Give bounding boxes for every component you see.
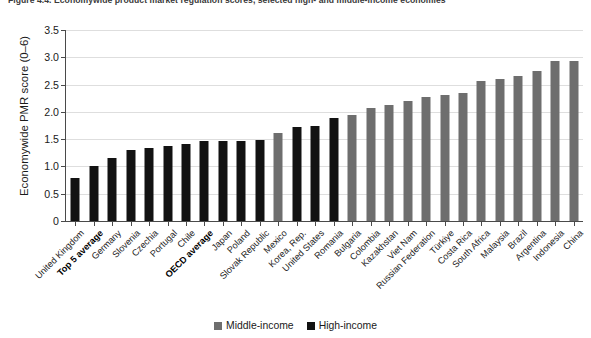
bar[interactable] — [477, 81, 486, 221]
y-tick-label: 1.5 — [29, 133, 59, 145]
x-tick-mark — [574, 222, 575, 226]
bar[interactable] — [514, 76, 523, 221]
bar-slot — [140, 30, 158, 221]
bar-slot — [306, 30, 324, 221]
bar-slot — [417, 30, 435, 221]
bar[interactable] — [403, 101, 412, 221]
x-tick-mark — [555, 222, 556, 226]
bar[interactable] — [329, 118, 338, 221]
bar[interactable] — [237, 141, 246, 221]
x-tick-mark — [352, 222, 353, 226]
bar-slot — [565, 30, 583, 221]
figure-title: Figure 4.4. Economywide product market r… — [8, 0, 583, 6]
x-axis-labels: United KingdomTop 5 averageGermanySloven… — [66, 228, 583, 318]
bar[interactable] — [71, 178, 80, 221]
bar[interactable] — [108, 158, 117, 221]
x-tick-mark — [481, 222, 482, 226]
x-tick-mark — [500, 222, 501, 226]
bar[interactable] — [495, 79, 504, 221]
bar-slot — [121, 30, 139, 221]
bar[interactable] — [422, 97, 431, 221]
legend-entry[interactable]: Middle-income — [214, 320, 294, 331]
x-tick-mark — [537, 222, 538, 226]
x-tick-mark — [518, 222, 519, 226]
bar-slot — [66, 30, 84, 221]
x-tick-mark — [131, 222, 132, 226]
x-tick-label: China — [561, 228, 585, 252]
bar-slot — [491, 30, 509, 221]
y-tick-label: 0 — [29, 215, 59, 227]
bar-slot — [509, 30, 527, 221]
bar[interactable] — [366, 108, 375, 221]
bar-slot — [546, 30, 564, 221]
chart-legend: Middle-incomeHigh-income — [0, 320, 591, 331]
x-tick-mark — [426, 222, 427, 226]
legend-label: Middle-income — [226, 320, 294, 331]
legend-swatch-icon — [214, 322, 222, 330]
bar[interactable] — [569, 61, 578, 221]
x-tick-mark — [168, 222, 169, 226]
bar[interactable] — [385, 105, 394, 221]
bar-slot — [398, 30, 416, 221]
y-tick-label: 0.5 — [29, 188, 59, 200]
bar[interactable] — [292, 127, 301, 221]
bar-slot — [269, 30, 287, 221]
y-axis-ticks: 00.51.01.52.02.53.03.5 — [0, 0, 59, 338]
bar-slot — [288, 30, 306, 221]
x-tick-mark — [241, 222, 242, 226]
bar-slot — [325, 30, 343, 221]
x-axis-line — [65, 221, 583, 222]
y-tick-label: 3.5 — [29, 24, 59, 36]
x-tick-mark — [315, 222, 316, 226]
y-tick-label: 1.0 — [29, 160, 59, 172]
x-tick-mark — [334, 222, 335, 226]
x-tick-mark — [260, 222, 261, 226]
bar[interactable] — [145, 148, 154, 221]
bar-slot — [472, 30, 490, 221]
x-tick-mark — [371, 222, 372, 226]
bar[interactable] — [218, 141, 227, 221]
x-tick-mark — [94, 222, 95, 226]
x-tick-mark — [297, 222, 298, 226]
bar-slot — [177, 30, 195, 221]
y-tick-label: 2.0 — [29, 106, 59, 118]
bar[interactable] — [163, 146, 172, 221]
y-tick-label: 2.5 — [29, 79, 59, 91]
figure-container: Figure 4.4. Economywide product market r… — [0, 0, 591, 338]
bar-slot — [158, 30, 176, 221]
bar[interactable] — [126, 150, 135, 221]
x-tick-mark — [186, 222, 187, 226]
bar[interactable] — [255, 140, 264, 221]
bar-slot — [232, 30, 250, 221]
y-tick-label: 3.0 — [29, 51, 59, 63]
x-tick-mark — [408, 222, 409, 226]
bar[interactable] — [89, 166, 98, 221]
bar-slot — [214, 30, 232, 221]
bar-slot — [454, 30, 472, 221]
bar[interactable] — [200, 141, 209, 221]
bar-slot — [361, 30, 379, 221]
legend-label: High-income — [319, 320, 377, 331]
bar[interactable] — [348, 115, 357, 221]
bar[interactable] — [274, 133, 283, 221]
bar-slot — [528, 30, 546, 221]
x-tick-mark — [389, 222, 390, 226]
bar[interactable] — [551, 61, 560, 221]
x-tick-mark — [223, 222, 224, 226]
bars-group — [66, 30, 583, 221]
x-tick-mark — [278, 222, 279, 226]
legend-swatch-icon — [307, 322, 315, 330]
bar-slot — [195, 30, 213, 221]
bar-slot — [251, 30, 269, 221]
bar[interactable] — [532, 71, 541, 221]
bar-slot — [435, 30, 453, 221]
bar-slot — [343, 30, 361, 221]
bar[interactable] — [311, 126, 320, 221]
legend-entry[interactable]: High-income — [307, 320, 377, 331]
x-tick-mark — [445, 222, 446, 226]
x-tick-mark — [149, 222, 150, 226]
bar[interactable] — [458, 93, 467, 221]
bar[interactable] — [182, 144, 191, 221]
bar-slot — [103, 30, 121, 221]
bar[interactable] — [440, 95, 449, 221]
